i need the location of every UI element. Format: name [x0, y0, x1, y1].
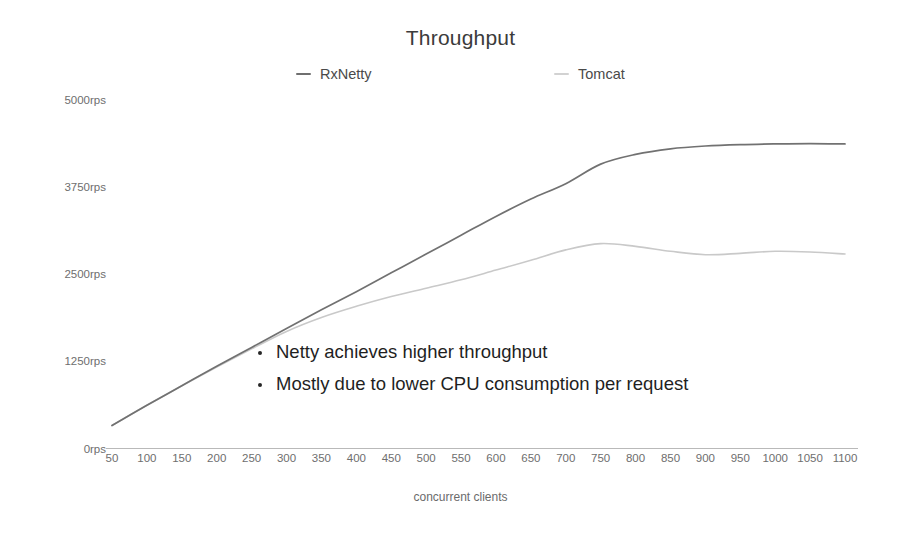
bullet-dot-icon: [258, 383, 262, 387]
x-axis-tick-label: 750: [591, 452, 610, 464]
x-axis-tick-label: 1000: [762, 452, 788, 464]
x-axis-tick-label: 850: [661, 452, 680, 464]
x-axis-tick-label: 400: [347, 452, 366, 464]
plot-area: 0rps1250rps2500rps3750rps5000rps 5010015…: [0, 0, 921, 550]
slide-canvas: Throughput RxNetty Tomcat 0rps1250rps250…: [0, 0, 921, 550]
x-axis-tick-label: 450: [382, 452, 401, 464]
bullet-dot-icon: [258, 351, 262, 355]
x-axis-tick-label: 200: [207, 452, 226, 464]
x-axis-tick-label: 100: [137, 452, 156, 464]
bullet-text: Netty achieves higher throughput: [276, 341, 548, 364]
y-axis-tick-label: 5000rps: [64, 94, 106, 106]
x-axis-tick-label: 950: [731, 452, 750, 464]
x-axis-tick-label: 300: [277, 452, 296, 464]
x-axis-tick-label: 1100: [833, 452, 858, 464]
x-axis-tick-label: 600: [486, 452, 505, 464]
x-axis-tick-label: 550: [451, 452, 470, 464]
x-axis-caption: concurrent clients: [0, 490, 921, 504]
bullet-item: Netty achieves higher throughput: [258, 341, 878, 364]
x-axis-tick-label: 700: [556, 452, 575, 464]
x-axis-tick-label: 500: [417, 452, 436, 464]
y-axis-tick-label: 2500rps: [64, 268, 106, 280]
x-axis-tick-label: 1050: [797, 452, 823, 464]
bullet-list: Netty achieves higher throughput Mostly …: [258, 341, 878, 404]
y-axis-tick-label: 1250rps: [64, 355, 106, 367]
x-axis-tick-label: 900: [696, 452, 715, 464]
x-axis-tick-label: 150: [172, 452, 191, 464]
x-axis-tick-label: 650: [521, 452, 540, 464]
bullet-text: Mostly due to lower CPU consumption per …: [276, 373, 688, 396]
x-axis-tick-label: 800: [626, 452, 645, 464]
bullet-item: Mostly due to lower CPU consumption per …: [258, 373, 878, 396]
y-axis-tick-label: 3750rps: [64, 181, 106, 193]
x-axis-tick-label: 350: [312, 452, 331, 464]
x-axis-labels: 5010015020025030035040045050055060065070…: [0, 452, 921, 472]
x-axis-tick-label: 50: [106, 452, 119, 464]
x-axis-tick-label: 250: [242, 452, 261, 464]
